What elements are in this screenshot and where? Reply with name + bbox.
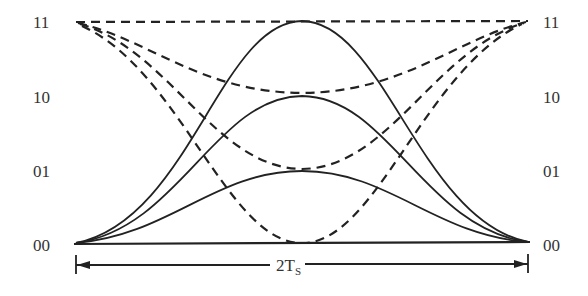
dimension-arrow-right-icon (514, 260, 527, 268)
right-level-labels: 11 10 01 00 (543, 13, 560, 255)
left-label-10: 10 (33, 88, 50, 107)
solid-curve-00-to-01 (76, 171, 528, 243)
duration-dimension: 2TS (76, 254, 528, 277)
solid-curve-00-to-00 (74, 242, 530, 244)
dimension-arrow-left-icon (77, 261, 90, 269)
dashed-curves-from-11 (76, 21, 528, 243)
solid-curve-00-to-11 (76, 21, 528, 243)
left-label-00: 00 (33, 236, 50, 255)
left-label-01: 01 (33, 162, 50, 181)
left-level-labels: 11 10 01 00 (33, 13, 50, 255)
solid-curves-from-00 (74, 21, 530, 244)
right-label-10: 10 (543, 88, 560, 107)
right-label-01: 01 (543, 162, 560, 181)
pulse-transition-diagram: 11 10 01 00 11 10 01 00 (0, 0, 588, 296)
left-label-11: 11 (33, 13, 49, 32)
right-label-11: 11 (543, 13, 559, 32)
right-label-00: 00 (543, 236, 560, 255)
duration-label: 2TS (276, 256, 301, 277)
dashed-curve-11-to-10 (78, 22, 526, 93)
